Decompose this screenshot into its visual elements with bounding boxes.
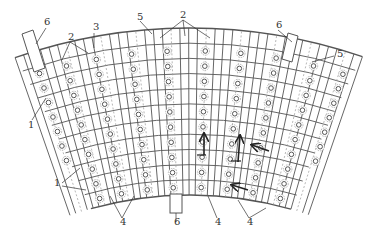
blast-hole-outer <box>70 91 78 99</box>
label-5a: 5 <box>137 11 143 22</box>
blast-hole-outer <box>306 77 314 85</box>
blast-hole-outer <box>267 84 275 92</box>
blast-hole-outer <box>167 138 175 146</box>
support-post-right <box>282 33 298 62</box>
blast-hole-outer <box>287 150 295 158</box>
label-1b: 1 <box>54 177 60 188</box>
blast-hole-outer <box>237 49 245 57</box>
blast-hole-outer <box>166 108 174 116</box>
blast-hole-outer <box>127 50 135 58</box>
blast-hole-outer <box>198 138 206 146</box>
blast-hole-outer <box>235 64 243 72</box>
blast-hole-outer <box>112 160 120 168</box>
blast-hole-outer <box>166 123 174 131</box>
blast-hole-outer <box>254 159 262 167</box>
blast-hole-outer <box>199 108 207 116</box>
leader-line <box>122 196 134 218</box>
blast-hole-outer <box>229 125 237 133</box>
blast-hole-outer <box>168 153 176 161</box>
leader-line <box>208 196 217 218</box>
blast-hole-outer <box>280 180 288 188</box>
blast-hole-outer <box>199 123 207 131</box>
label-4b: 4 <box>215 216 221 227</box>
blast-hole-outer <box>129 65 137 73</box>
blast-hole-outer <box>164 62 172 70</box>
leader-line <box>62 186 86 190</box>
blast-hole-outer <box>136 125 144 133</box>
blast-hole-outer <box>201 62 209 70</box>
blast-hole-outer <box>291 135 299 143</box>
support-post-bottom <box>170 194 182 213</box>
blast-hole-outer <box>169 184 177 192</box>
blast-hole-outer <box>311 157 319 165</box>
blast-hole-outer <box>339 70 347 78</box>
blast-hole-outer <box>143 186 151 194</box>
blast-hole-outer <box>228 140 236 148</box>
grid-radial <box>308 57 362 215</box>
blast-hole-outer <box>134 110 142 118</box>
grid-radial <box>285 46 328 207</box>
blast-hole-outer <box>249 189 257 197</box>
leader-line <box>140 21 152 34</box>
blast-hole-outer <box>302 91 310 99</box>
leader-line <box>183 20 210 38</box>
fan-grid-diagram: 1123526654644 <box>0 0 382 243</box>
blast-hole-outer <box>226 155 234 163</box>
blast-hole-outer <box>320 128 328 136</box>
blast-hole-outer <box>62 62 70 70</box>
blast-hole-outer <box>334 85 342 93</box>
blast-hole-outer <box>168 168 176 176</box>
grid-radial <box>180 28 183 195</box>
blast-hole-outer <box>88 165 96 173</box>
label-4a: 4 <box>120 216 126 227</box>
blast-hole-outer <box>234 79 242 87</box>
label-1a: 1 <box>28 119 34 130</box>
diagram-canvas: 1123526654644 <box>0 0 382 243</box>
blast-hole-outer <box>262 114 270 122</box>
blast-hole-outer <box>231 110 239 118</box>
blast-hole-outer <box>163 47 171 55</box>
blast-hole-outer <box>66 77 74 85</box>
blast-hole-outer <box>53 127 61 135</box>
blast-hole-outer <box>330 99 338 107</box>
blast-hole-outer <box>223 185 231 193</box>
blast-hole-outer <box>309 62 317 70</box>
grid-radial <box>15 58 70 216</box>
blast-hole-outer <box>295 121 303 129</box>
blast-hole-outer <box>164 77 172 85</box>
blast-hole-outer <box>62 156 70 164</box>
blast-hole-outer <box>284 165 292 173</box>
support-post-left <box>22 30 45 72</box>
blast-hole-outer <box>95 194 103 202</box>
grid-radial <box>40 49 87 209</box>
blast-hole-outer <box>77 121 85 129</box>
blast-hole-outer <box>44 98 52 106</box>
blast-hole-outer <box>298 106 306 114</box>
blast-hole-outer <box>201 47 209 55</box>
blast-hole-outer <box>92 180 100 188</box>
label-6b: 6 <box>276 19 282 30</box>
blast-hole-outer <box>40 84 48 92</box>
blast-hole-outer <box>81 135 89 143</box>
blast-hole-outer <box>251 174 259 182</box>
blast-hole-outer <box>276 194 284 202</box>
label-6c: 6 <box>174 216 180 227</box>
label-4c: 4 <box>247 216 253 227</box>
blast-hole-outer <box>73 106 81 114</box>
blast-hole-outer <box>200 77 208 85</box>
blast-hole-outer <box>98 85 106 93</box>
blast-hole-outer <box>101 100 109 108</box>
blast-hole-outer <box>92 55 100 63</box>
blast-hole-outer <box>232 94 240 102</box>
blast-hole-outer <box>84 150 92 158</box>
blast-hole-outer <box>165 93 173 101</box>
blast-hole-outer <box>138 140 146 148</box>
blast-hole-outer <box>197 168 205 176</box>
blast-hole-outer <box>272 54 280 62</box>
blast-hole-outer <box>325 114 333 122</box>
blast-hole-outer <box>117 190 125 198</box>
label-3: 3 <box>93 21 99 32</box>
blast-hole-outer <box>225 170 233 178</box>
blast-hole-outer <box>269 69 277 77</box>
blast-hole-outer <box>109 145 117 153</box>
